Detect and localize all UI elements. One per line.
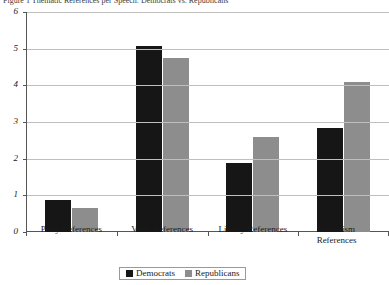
x-axis-label-liberty-references: Liberty References bbox=[208, 224, 299, 235]
x-axis-label-party-references: Party References bbox=[26, 224, 117, 235]
x-axis-label-voter-references: Voter References bbox=[117, 224, 208, 235]
y-axis-tick-label: 3 bbox=[14, 117, 19, 126]
legend-label: Republicans bbox=[195, 268, 240, 278]
y-axis-tick bbox=[23, 122, 27, 123]
gridline bbox=[26, 85, 389, 86]
legend-label: Democrats bbox=[136, 268, 175, 278]
gridline bbox=[26, 49, 389, 50]
y-axis-tick bbox=[23, 159, 27, 160]
y-axis-tick-labels: 0123456 bbox=[4, 12, 18, 232]
gridline bbox=[26, 159, 389, 160]
y-axis-tick-label: 5 bbox=[14, 44, 19, 53]
plot-wrapper: 0123456 bbox=[0, 12, 389, 244]
bar-democrats-voter-references bbox=[136, 46, 162, 232]
x-axis-label-patriotism-references: Patriotism References bbox=[298, 224, 375, 246]
y-axis-tick-label: 1 bbox=[14, 190, 19, 199]
y-axis-tick-label: 2 bbox=[14, 154, 19, 163]
bar-republicans-patriotism-references bbox=[344, 82, 370, 232]
y-axis-tick bbox=[23, 195, 27, 196]
chart-legend: DemocratsRepublicans bbox=[119, 267, 246, 280]
legend-item-democrats: Democrats bbox=[126, 268, 175, 278]
y-axis-tick-label: 4 bbox=[14, 80, 19, 89]
y-axis-tick bbox=[23, 49, 27, 50]
bar-republicans-liberty-references bbox=[253, 137, 279, 232]
gridline bbox=[26, 12, 389, 13]
figure-caption: Figure 1 Thematic References per Speech:… bbox=[3, 0, 387, 5]
gridline bbox=[26, 122, 389, 123]
legend-swatch-democrats-icon bbox=[126, 270, 133, 277]
y-axis-tick bbox=[23, 85, 27, 86]
legend-swatch-republicans-icon bbox=[185, 270, 192, 277]
y-axis-tick-label: 6 bbox=[14, 7, 19, 16]
legend-item-republicans: Republicans bbox=[185, 268, 240, 278]
bar-republicans-voter-references bbox=[163, 58, 189, 232]
x-axis-category-labels: Party ReferencesVoter ReferencesLiberty … bbox=[26, 224, 389, 260]
y-axis-tick bbox=[23, 12, 27, 13]
gridline bbox=[26, 195, 389, 196]
bar-democrats-liberty-references bbox=[226, 163, 252, 232]
figure-container: Figure 1 Thematic References per Speech:… bbox=[0, 0, 389, 285]
bar-democrats-patriotism-references bbox=[317, 128, 343, 233]
y-axis-tick-label: 0 bbox=[14, 227, 19, 236]
plot-area bbox=[26, 12, 389, 232]
